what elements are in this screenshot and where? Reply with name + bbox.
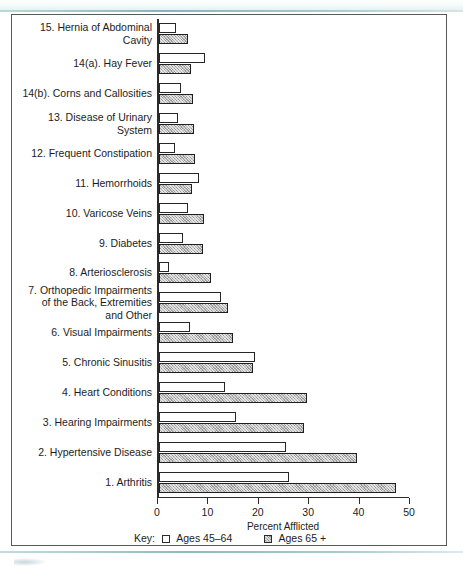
- bar-young: [159, 203, 188, 213]
- bar-young: [159, 53, 205, 63]
- bar-old: [159, 273, 211, 283]
- bar-old: [159, 453, 357, 463]
- category-label: 6. Visual Impairments: [51, 326, 152, 339]
- legend-swatch-young-icon: [162, 535, 170, 543]
- bar-young: [159, 322, 190, 332]
- bar-old: [159, 423, 304, 433]
- category-label: 5. Chronic Sinusitis: [62, 356, 152, 369]
- x-axis-line: [157, 497, 409, 498]
- category-label: 15. Hernia of Abdominal Cavity: [14, 21, 152, 46]
- category-label: 14(a). Hay Fever: [73, 57, 152, 70]
- x-axis-tick-label: 50: [403, 506, 415, 518]
- bar-young: [159, 233, 183, 243]
- bar-old: [159, 64, 191, 74]
- category-label: 2. Hypertensive Disease: [38, 446, 152, 459]
- category-label: 12. Frequent Constipation: [31, 147, 152, 160]
- category-label: 4. Heart Conditions: [62, 386, 152, 399]
- category-label: 3. Hearing Impairments: [43, 416, 152, 429]
- bar-young: [159, 113, 178, 123]
- legend-label-old: Ages 65 +: [278, 532, 326, 544]
- bar-old: [159, 483, 396, 493]
- x-axis-tick: [157, 498, 158, 504]
- x-axis-tick: [207, 498, 208, 504]
- bar-old: [159, 214, 204, 224]
- bar-old: [159, 393, 307, 403]
- x-axis-tick: [258, 498, 259, 504]
- category-label: 10. Varicose Veins: [66, 207, 152, 220]
- legend-label-young: Ages 45–64: [176, 532, 232, 544]
- x-axis-tick: [308, 498, 309, 504]
- legend-entry-old: Ages 65 +: [264, 532, 326, 544]
- category-axis-labels: 15. Hernia of Abdominal Cavity14(a). Hay…: [14, 19, 152, 497]
- bar-old: [159, 154, 195, 164]
- bar-old: [159, 333, 233, 343]
- bar-young: [159, 143, 175, 153]
- category-label: 8. Arteriosclerosis: [69, 266, 152, 279]
- legend-swatch-old-icon: [264, 535, 272, 543]
- bar-old: [159, 303, 228, 313]
- bar-old: [159, 34, 188, 44]
- category-label: 14(b). Corns and Callosities: [22, 87, 152, 100]
- bar-young: [159, 23, 176, 33]
- x-axis-tick: [409, 498, 410, 504]
- legend-entry-young: Key: Ages 45–64: [134, 532, 232, 544]
- bar-young: [159, 442, 286, 452]
- bar-old: [159, 244, 203, 254]
- bar-young: [159, 412, 236, 422]
- bar-young: [159, 173, 199, 183]
- page-bottom-artifact: [14, 558, 48, 566]
- page-top-rule: [0, 10, 463, 12]
- page-bottom-rule: [0, 551, 463, 553]
- category-label: 13. Disease of Urinary System: [14, 111, 152, 136]
- bar-young: [159, 83, 181, 93]
- x-axis-tick-label: 40: [353, 506, 365, 518]
- bar-old: [159, 124, 194, 134]
- plot-area: 01020304050 Percent Afflicted: [157, 19, 423, 497]
- bar-young: [159, 352, 255, 362]
- legend-key-word: Key:: [134, 532, 155, 544]
- category-label: 1. Arthritis: [105, 476, 152, 489]
- bar-old: [159, 363, 253, 373]
- x-axis-tick-label: 10: [202, 506, 214, 518]
- x-axis-tick: [359, 498, 360, 504]
- page-top-tint: [0, 0, 463, 10]
- category-label: 7. Orthopedic Impairments of the Back, E…: [28, 284, 152, 322]
- bar-old: [159, 184, 192, 194]
- x-axis-tick-label: 30: [302, 506, 314, 518]
- x-axis-tick-label: 0: [154, 506, 160, 518]
- bar-old: [159, 94, 193, 104]
- bar-young: [159, 262, 169, 272]
- category-label: 11. Hemorrhoids: [75, 177, 152, 190]
- category-label: 9. Diabetes: [99, 237, 152, 250]
- x-axis-tick-label: 20: [252, 506, 264, 518]
- chart-frame: 15. Hernia of Abdominal Cavity14(a). Hay…: [11, 14, 447, 546]
- bar-young: [159, 472, 289, 482]
- bar-young: [159, 292, 221, 302]
- chart-legend: Key: Ages 45–64 Ages 65 +: [12, 531, 448, 544]
- bar-young: [159, 382, 225, 392]
